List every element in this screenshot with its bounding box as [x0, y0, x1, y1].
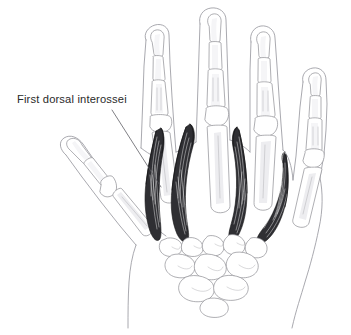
- carpal-bones-group: [159, 234, 267, 317]
- hand-anatomy-illustration: [0, 0, 351, 335]
- label-first-dorsal-interossei: First dorsal interossei: [17, 93, 127, 106]
- middle-phalanges: [205, 14, 230, 213]
- thumb-phalanges: [67, 138, 154, 236]
- anatomical-figure: First dorsal interossei: [0, 0, 351, 335]
- third-dorsal-interosseous-muscle: [229, 127, 247, 240]
- little-phalanges: [293, 73, 325, 228]
- second-dorsal-interosseous-muscle: [171, 124, 194, 242]
- ring-phalanges: [254, 32, 278, 210]
